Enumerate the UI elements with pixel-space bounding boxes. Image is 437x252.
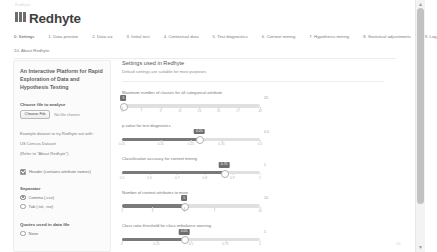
tab-1-data-preview[interactable]: 1. Data preview <box>48 32 78 40</box>
slider-rail[interactable] <box>122 104 260 107</box>
slider-label-4: Class ratio threshold for class imbalanc… <box>122 223 272 229</box>
slider-tick-label: 3 <box>151 209 153 213</box>
tab-bar: 0. Settings1. Data preview2. Data viz3. … <box>14 32 396 55</box>
scroll-up-icon[interactable]: ▲ <box>417 1 424 8</box>
slider-tick-label: 9 <box>160 109 162 113</box>
separator-radio-group: Comma (.csv)Tab (.txt, .tsv) <box>20 195 104 210</box>
slider-tick-label: 1 <box>259 176 261 180</box>
slider-tick-label: 11 <box>178 109 181 113</box>
settings-divider <box>122 81 384 82</box>
content-area: An Interactive Platform for Rapid Explor… <box>0 60 408 252</box>
settings-title: Settings used in Redhyte <box>122 60 388 66</box>
tab-row-primary: 0. Settings1. Data preview2. Data viz3. … <box>14 32 396 40</box>
slider-block-3: Number of context attributes to mine5101… <box>122 190 388 215</box>
slider-fill <box>122 171 224 174</box>
masthead: Redhyte <box>15 11 81 26</box>
tab-10-about-redhyte[interactable]: 10. About Redhyte <box>14 47 49 55</box>
slider-tick-label: 7 <box>140 109 142 113</box>
file-input-row[interactable]: Choose File No file chosen <box>20 110 104 120</box>
slider-tick-label: 0.01 <box>119 142 125 146</box>
example-note-line2: US Census Dataset <box>20 140 104 148</box>
slider-tick-label: 20 <box>258 109 262 113</box>
quotes-group-title: Quotes used in data file <box>20 222 104 227</box>
slider-max-label: 1 <box>264 230 266 234</box>
sidebar-spacer <box>20 213 104 222</box>
slider-label-3: Number of context attributes to mine <box>122 190 272 196</box>
slider-max-label: 10 <box>264 196 268 200</box>
main-panel: Settings used in Redhyte Default setting… <box>122 60 388 252</box>
slider-4[interactable]: 0.05100.250.50.751 <box>122 235 260 248</box>
slider-label-2: Classification accuracy for context mini… <box>122 156 272 162</box>
slider-block-1: p-value for test diagnostics0.050.50.010… <box>122 123 388 148</box>
separator-group-title: Separator <box>20 186 104 191</box>
slider-0[interactable]: 5205791113151720 <box>122 101 260 114</box>
slider-tick-label: 17 <box>236 109 240 113</box>
example-note-line3: (Refer to "About Redhyte") <box>20 150 104 158</box>
page-scrollbar[interactable]: ▲ ▼ <box>415 0 425 252</box>
header-checkbox[interactable]: Header (contains attribute names) <box>20 169 104 175</box>
separator-option-0[interactable]: Comma (.csv) <box>20 195 104 201</box>
radio-icon[interactable] <box>20 204 26 210</box>
radio-icon[interactable] <box>20 195 26 201</box>
slider-tick-label: 1 <box>121 209 123 213</box>
choose-file-button[interactable]: Choose File <box>20 110 50 120</box>
page-foot-note: 1/2 <box>396 242 401 246</box>
slider-tick-label: 0 <box>121 242 123 246</box>
slider-tick-label: 0.5 <box>258 142 263 146</box>
slider-value-bubble: 0.75 <box>219 162 230 168</box>
tab-4-contextual-data[interactable]: 4. Contextual data <box>164 32 199 40</box>
separator-option-1[interactable]: Tab (.txt, .tsv) <box>20 204 104 210</box>
slider-1[interactable]: 0.050.50.010.150.250.350.5 <box>122 135 260 148</box>
slider-tick-label: 10 <box>258 209 262 213</box>
slider-tick-label: 5 <box>183 209 185 213</box>
slider-ticks: 0.50.60.70.80.91 <box>122 176 260 182</box>
slider-tick-label: 0.5 <box>120 176 125 180</box>
slider-tick-label: 5 <box>121 109 123 113</box>
example-dataset-note: Example dataset to try Redhyte out with:… <box>20 130 104 157</box>
slider-2[interactable]: 0.7510.50.60.70.80.91 <box>122 168 260 181</box>
tab-7-hypothesis-mining[interactable]: 7. Hypothesis mining <box>309 32 349 40</box>
slider-tick-label: 7 <box>214 209 216 213</box>
tab-3-initial-test[interactable]: 3. Initial test <box>127 32 150 40</box>
tab-bar-divider <box>14 58 396 59</box>
quotes-option-label: None <box>29 231 39 236</box>
slider-tick-label: 0.7 <box>175 176 180 180</box>
slider-max-label: 0.5 <box>264 130 269 134</box>
settings-subtitle: Default settings are suitable for most p… <box>122 69 388 74</box>
page-root: Redhyte Redhyte 0. Settings1. Data previ… <box>0 0 408 252</box>
slider-tick-label: 0.5 <box>189 242 194 246</box>
file-input-label: Choose file to analyse <box>20 102 104 107</box>
scrollbar-thumb[interactable] <box>417 8 424 204</box>
slider-3[interactable]: 510135710 <box>122 201 260 214</box>
slider-fill <box>122 238 184 241</box>
tab-0-settings[interactable]: 0. Settings <box>14 32 34 40</box>
slider-label-0: Maximum number of classes for all catego… <box>122 90 272 96</box>
scroll-down-icon[interactable]: ▼ <box>417 244 424 251</box>
slider-ticks: 0.010.150.250.350.5 <box>122 142 260 148</box>
tab-8-statistical-adjustments[interactable]: 8. Statistical adjustments <box>363 32 411 40</box>
slider-tick-label: 1 <box>259 242 261 246</box>
tab-2-data-viz[interactable]: 2. Data viz <box>92 32 112 40</box>
tab-9-log[interactable]: 9. Log <box>425 32 437 40</box>
file-status-text: No file chosen <box>54 112 79 117</box>
radio-icon[interactable] <box>20 231 26 237</box>
separator-option-label: Comma (.csv) <box>29 195 54 200</box>
slider-value-bubble: 0.05 <box>194 129 205 135</box>
browser-pre-title: Redhyte <box>15 3 31 7</box>
slider-list: Maximum number of classes for all catego… <box>122 90 388 248</box>
slider-tick-label: 15 <box>217 109 221 113</box>
tab-6-context-mining[interactable]: 6. Context mining <box>262 32 295 40</box>
slider-tick-label: 0.35 <box>218 142 224 146</box>
slider-value-bubble: 0.05 <box>179 229 190 235</box>
slider-block-2: Classification accuracy for context mini… <box>122 156 388 181</box>
slider-tick-label: 0.9 <box>230 176 235 180</box>
slider-value-bubble: 5 <box>120 95 126 101</box>
check-icon[interactable] <box>20 169 26 175</box>
slider-tick-label: 0.15 <box>157 142 163 146</box>
slider-tick-label: 0.75 <box>222 242 228 246</box>
example-note-line1: Example dataset to try Redhyte out with: <box>20 130 104 138</box>
tab-5-test-diagnostics[interactable]: 5. Test diagnostics <box>213 32 248 40</box>
slider-tick-label: 0.25 <box>188 142 194 146</box>
slider-max-label: 20 <box>264 96 268 100</box>
quotes-option-0[interactable]: None <box>20 231 104 237</box>
